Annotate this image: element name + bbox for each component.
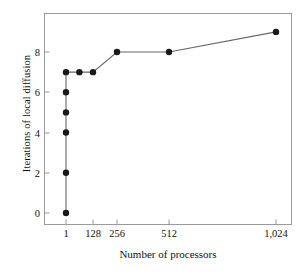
y-tick-label-0: 0: [14, 208, 40, 219]
chart-plot-area: [0, 0, 308, 274]
data-point: [63, 210, 69, 216]
plot-frame: [45, 14, 292, 225]
data-point: [63, 170, 69, 176]
data-point: [273, 29, 279, 35]
data-point: [114, 49, 120, 55]
x-tick-label-1: 1: [63, 228, 68, 239]
x-axis-title: Number of processors: [44, 248, 292, 260]
data-point: [63, 109, 69, 115]
x-tick-label-1024: 1,024: [264, 228, 288, 239]
x-tick-label-128: 128: [85, 228, 101, 239]
data-point: [63, 69, 69, 75]
chart-figure: 0 2 4 6 8 1 128 256 512 1,024 Iterations…: [0, 0, 308, 274]
x-tick-label-512: 512: [161, 228, 177, 239]
data-point: [63, 129, 69, 135]
data-point: [63, 89, 69, 95]
data-point: [76, 69, 82, 75]
x-tick-label-256: 256: [109, 228, 125, 239]
y-axis-title: Iterations of local diffusion: [21, 24, 32, 204]
data-point: [90, 69, 96, 75]
data-point: [166, 49, 172, 55]
